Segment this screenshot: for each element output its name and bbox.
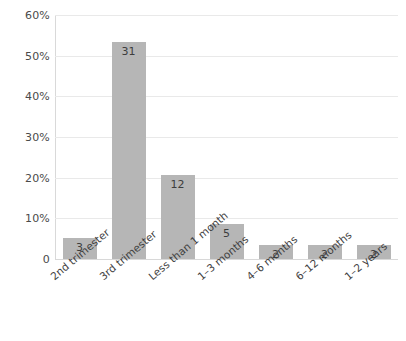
- x-tick-label: 1–2 years: [342, 240, 389, 282]
- x-axis: 2nd trimester3rd trimesterLess than 1 mo…: [0, 0, 406, 341]
- x-tick-label: Less than 1 month: [146, 209, 230, 282]
- bar-chart: 010%20%30%40%50%60% 331125222 2nd trimes…: [0, 0, 406, 341]
- x-tick-label: 4–6 months: [244, 233, 300, 282]
